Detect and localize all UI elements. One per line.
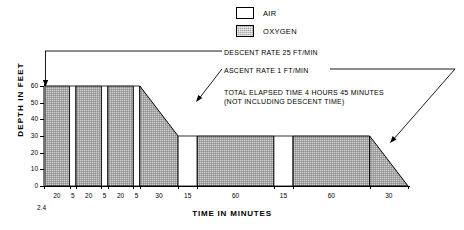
descent-arrowhead (43, 80, 48, 87)
ascent-leader-2-diagonal (392, 69, 455, 141)
dive-profile-chart: AIR OXYGEN DESCENT RATE 25 FT/MIN ASCENT… (0, 0, 464, 230)
ascent-leader-1 (198, 69, 222, 100)
callout-lines (0, 0, 464, 230)
